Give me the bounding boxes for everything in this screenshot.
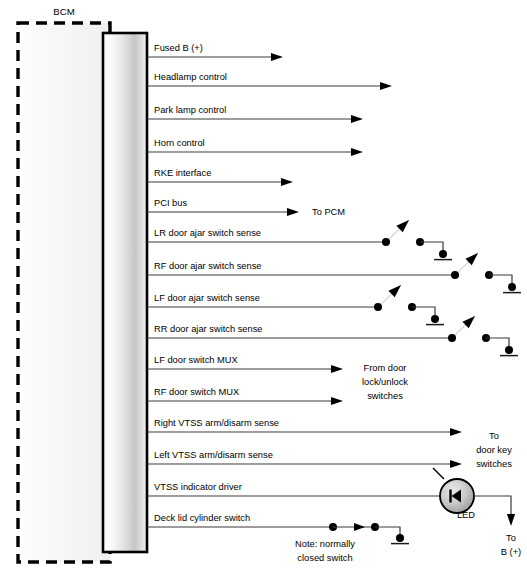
arrow-head-icon xyxy=(331,397,343,405)
bcm-enclosure xyxy=(18,23,110,562)
wire-row: RR door ajar switch sense xyxy=(147,316,518,356)
wire-row: Fused B (+) xyxy=(147,43,283,61)
wire-row: Right VTSS arm/disarm sense xyxy=(147,418,462,436)
diagram-canvas: BCM Fused B (+)Headlamp controlPark lamp… xyxy=(0,0,527,569)
bcm-title: BCM xyxy=(53,6,74,17)
arrow-head-icon xyxy=(450,428,462,436)
note-line1: Note: normally xyxy=(295,539,355,549)
wire-label: LR door ajar switch sense xyxy=(154,228,261,238)
arrow-head-icon xyxy=(331,365,343,373)
junction-dot xyxy=(448,334,456,342)
wire-label: Horn control xyxy=(154,138,205,148)
wire-row: RKE interface xyxy=(147,168,293,186)
junction-dot xyxy=(439,250,447,258)
junction-dot xyxy=(396,534,404,542)
wire-label: LF door switch MUX xyxy=(154,355,238,365)
wire-row: RF door ajar switch sense xyxy=(147,253,521,293)
arrow-head-icon xyxy=(271,53,283,61)
switch-arm-icon xyxy=(454,316,475,336)
junction-dot xyxy=(451,271,459,279)
led-output-lead xyxy=(474,496,511,517)
annotation-from-door-lock-line1: From door xyxy=(364,363,407,373)
bcm-wiring-diagram: BCM Fused B (+)Headlamp controlPark lamp… xyxy=(0,0,527,569)
annotation-to-door-key-line3: switches xyxy=(476,459,512,469)
wire-row: Horn control xyxy=(147,138,363,156)
nc-switch-arrow-icon xyxy=(354,523,365,531)
ground-lead xyxy=(375,527,400,538)
wire-label: LF door ajar switch sense xyxy=(154,293,260,303)
wire-label: Headlamp control xyxy=(154,72,227,82)
annotation-to-door-key-line2: door key xyxy=(476,445,512,455)
annotation-to-b-plus-line2: B (+) xyxy=(501,547,521,557)
annotation-from-door-lock-line3: switches xyxy=(367,391,403,401)
annotation-to-b-plus-line1: To xyxy=(506,533,516,543)
junction-dot xyxy=(374,303,382,311)
ground-symbol-icon xyxy=(500,346,518,356)
arrow-head-icon xyxy=(450,460,462,468)
ground-symbol-icon xyxy=(391,534,409,544)
arrow-head-icon xyxy=(507,514,515,526)
wire-row: Deck lid cylinder switch xyxy=(147,513,409,544)
wire-label: VTSS indicator driver xyxy=(154,482,242,492)
connector-bar-body xyxy=(103,33,147,552)
annotation-to-pcm: To PCM xyxy=(312,207,345,217)
arrow-head-icon xyxy=(351,115,363,123)
wire-label: Left VTSS arm/disarm sense xyxy=(154,450,273,460)
wire-row: LF door ajar switch sense xyxy=(147,285,444,325)
switch-arm-icon xyxy=(388,220,409,240)
wire-label: Fused B (+) xyxy=(154,43,203,53)
ground-symbol-icon xyxy=(503,283,521,293)
wire-row: PCI bus xyxy=(147,198,299,216)
junction-dot xyxy=(431,315,439,323)
annotation-from-door-lock-line2: lock/unlock xyxy=(362,377,408,387)
ground-symbol-icon xyxy=(426,315,444,325)
ground-symbol-icon xyxy=(434,250,452,260)
bcm-connector-bar xyxy=(103,33,147,552)
wire-label: RKE interface xyxy=(154,168,211,178)
wire-row: LR door ajar switch sense xyxy=(147,220,452,260)
wire-label: RF door switch MUX xyxy=(154,387,239,397)
note-line2: closed switch xyxy=(297,553,352,563)
junction-dot xyxy=(508,283,516,291)
arrow-head-icon xyxy=(380,82,392,90)
wire-label: PCI bus xyxy=(154,198,187,208)
bcm-dashed-box xyxy=(18,23,110,562)
led-emission-ray-icon xyxy=(433,468,444,479)
wire-label: Deck lid cylinder switch xyxy=(154,513,250,523)
wire-label: Right VTSS arm/disarm sense xyxy=(154,418,279,428)
annotation-led-label: LED xyxy=(457,510,475,520)
arrow-head-icon xyxy=(287,208,299,216)
wire-row: RF door switch MUX xyxy=(147,387,343,405)
led-symbol-icon xyxy=(440,479,474,513)
wire-layer: Fused B (+)Headlamp controlPark lamp con… xyxy=(147,43,521,544)
wire-label: RF door ajar switch sense xyxy=(154,261,261,271)
junction-dot xyxy=(505,346,513,354)
switch-arm-icon xyxy=(380,285,401,305)
wire-row: Left VTSS arm/disarm sense xyxy=(147,450,462,468)
junction-dot xyxy=(382,238,390,246)
wire-row: Headlamp control xyxy=(147,72,392,90)
wire-label: Park lamp control xyxy=(154,105,226,115)
annotation-to-door-key-line1: To xyxy=(489,431,499,441)
arrow-head-icon xyxy=(281,178,293,186)
arrow-head-icon xyxy=(351,148,363,156)
wire-row: LF door switch MUX xyxy=(147,355,343,373)
wire-row: Park lamp control xyxy=(147,105,363,123)
wire-label: RR door ajar switch sense xyxy=(154,324,263,334)
switch-arm-icon xyxy=(457,253,478,273)
